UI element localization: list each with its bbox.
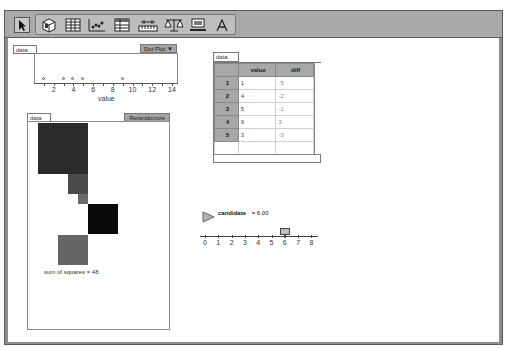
row-index[interactable]: 5 — [215, 129, 239, 142]
play-triangle-icon — [202, 211, 215, 223]
arrow-tool-button[interactable] — [14, 17, 30, 33]
summary-table-tool-button[interactable] — [112, 17, 132, 33]
dotplot-tick — [64, 83, 65, 86]
tool-palette — [35, 14, 236, 35]
monitor-icon — [188, 17, 208, 33]
cell-diff[interactable]: 3 — [276, 116, 314, 129]
dotplot-tick-label: 6 — [91, 86, 95, 93]
row-index[interactable]: 4 — [215, 116, 239, 129]
table-row[interactable]: 53-3 — [215, 129, 314, 142]
dotplot-tick — [162, 83, 163, 86]
slider-tick — [311, 235, 312, 238]
dotplot-tick — [103, 83, 104, 86]
case-table: value diff 11-524-235-149353-3 — [213, 62, 321, 163]
estimate-tool-button[interactable] — [163, 17, 183, 33]
residual-square — [88, 204, 118, 234]
slider-tick — [298, 235, 299, 238]
slider-tick — [205, 235, 206, 238]
dotplot-plot-area[interactable] — [34, 53, 178, 84]
row-index[interactable]: 1 — [215, 77, 239, 90]
cell-value[interactable]: 5 — [238, 103, 276, 116]
slider-tick — [232, 235, 233, 238]
case-table-cube-button[interactable] — [39, 17, 59, 33]
dotplot-tick-label: 8 — [111, 86, 115, 93]
table-row-empty[interactable] — [215, 142, 314, 155]
summary-table-icon — [112, 17, 132, 33]
cell-diff[interactable]: -3 — [276, 129, 314, 142]
slider-tick — [272, 235, 273, 238]
text-a-icon — [212, 17, 232, 33]
column-header-diff[interactable]: diff — [276, 64, 314, 77]
cell-diff[interactable]: -1 — [276, 103, 314, 116]
residual-square — [38, 123, 89, 174]
calculator-tool-button[interactable] — [188, 17, 208, 33]
slider-tick-label: 7 — [296, 239, 300, 246]
sum-of-squares-text: sum of squares = 48 — [44, 269, 99, 275]
table-row[interactable]: 35-1 — [215, 103, 314, 116]
empty-cell[interactable] — [276, 142, 314, 155]
table-row[interactable]: 11-5 — [215, 77, 314, 90]
cell-value[interactable]: 9 — [238, 116, 276, 129]
horizontal-scrollbar[interactable] — [214, 154, 320, 162]
slider-tick-label: 3 — [243, 239, 247, 246]
dotplot-tick-label: 4 — [71, 86, 75, 93]
vertical-scrollbar[interactable] — [314, 63, 321, 154]
cell-value[interactable]: 1 — [238, 77, 276, 90]
row-index[interactable]: 3 — [215, 103, 239, 116]
dotplot-menu-label: Dot Plot — [144, 46, 165, 52]
dotplot-tick — [123, 83, 124, 86]
dotplot-axis-line — [34, 83, 178, 84]
slider-tick-label: 2 — [230, 239, 234, 246]
dotplot-tick — [142, 83, 143, 86]
cell-diff[interactable]: -2 — [276, 90, 314, 103]
slider-play-button[interactable] — [202, 209, 215, 227]
dotplot-tick — [44, 83, 45, 86]
slider-ruler-icon — [137, 17, 159, 33]
table-data-tab[interactable]: data — [213, 52, 239, 62]
slider-tick-label: 5 — [270, 239, 274, 246]
slider-thumb[interactable] — [280, 228, 290, 235]
slider-label: candidate = 6.00 — [218, 210, 269, 216]
dotplot-tick-label: 10 — [129, 86, 137, 93]
slider-tick — [218, 235, 219, 238]
chevron-down-icon: ▼ — [167, 46, 173, 52]
pointer-arrow-icon — [15, 18, 29, 32]
graph-tool-button[interactable] — [87, 17, 107, 33]
slider-tick — [258, 235, 259, 238]
cell-value[interactable]: 3 — [238, 129, 276, 142]
column-header-value[interactable]: value — [238, 64, 276, 77]
row-index[interactable]: 2 — [215, 90, 239, 103]
empty-cell[interactable] — [215, 142, 239, 155]
slider-tick-label: 8 — [309, 239, 313, 246]
text-tool-button[interactable] — [212, 17, 232, 33]
dotplot-tick — [83, 83, 84, 86]
table-tool-button[interactable] — [63, 17, 83, 33]
dotplot-dot[interactable] — [121, 77, 124, 80]
dotplot-tick-label: 2 — [52, 86, 56, 93]
table-row[interactable]: 493 — [215, 116, 314, 129]
dotplot-tick-label: 12 — [148, 86, 156, 93]
cell-value[interactable]: 4 — [238, 90, 276, 103]
dotplot-dot[interactable] — [62, 77, 65, 80]
cell-diff[interactable]: -5 — [276, 77, 314, 90]
slider-tick-label: 0 — [203, 239, 207, 246]
slider-tool-button[interactable] — [137, 17, 157, 33]
slider-value-text: = 6.00 — [252, 210, 269, 216]
dotplot-menu-button[interactable]: Dot Plot ▼ — [140, 44, 177, 53]
dotplot-dot[interactable] — [42, 77, 45, 80]
residual-square — [68, 174, 88, 194]
dotplot-axis-label: value — [98, 95, 115, 102]
residual-square — [78, 194, 88, 204]
cube-icon — [39, 17, 59, 33]
empty-cell[interactable] — [238, 142, 276, 155]
residual-square — [58, 235, 88, 265]
slider-variable-name: candidate — [218, 210, 246, 216]
table-icon — [63, 17, 83, 33]
dotplot-tick-label: 14 — [168, 86, 176, 93]
row-header-corner — [215, 64, 239, 77]
slider-tick-label: 6 — [283, 239, 287, 246]
slider-tick — [245, 235, 246, 238]
slider-tick-label: 4 — [256, 239, 260, 246]
balance-scale-icon — [163, 17, 185, 33]
table-row[interactable]: 24-2 — [215, 90, 314, 103]
